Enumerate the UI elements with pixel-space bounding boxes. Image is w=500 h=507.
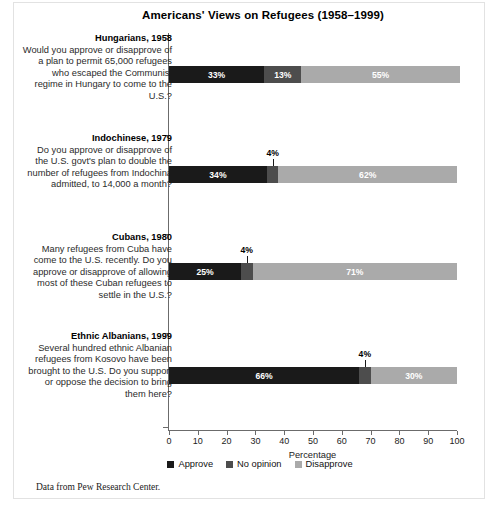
x-tick-label: 40 [279,436,289,446]
x-tick-label: 0 [166,436,171,446]
bar-segment-disapprove[interactable]: 30% [371,367,457,384]
legend-item[interactable]: Approve [167,459,213,469]
chart-title: Americans' Views on Refugees (1958–1999) [14,9,486,21]
x-tick-mark [198,431,199,435]
x-tick-mark [428,431,429,435]
legend-label: Approve [178,459,213,469]
stacked-bar[interactable]: 66%4%30% [169,367,457,384]
x-tick-mark [169,431,170,435]
stacked-bar[interactable]: 33%13%55% [169,66,457,83]
group-label: Cubans, 1980Many refugees from Cuba have… [22,232,172,302]
bar-segment-approve[interactable]: 33% [169,66,264,83]
group-question: Several hundred ethnic Albanian refugees… [22,343,172,401]
x-tick-mark [284,431,285,435]
x-tick-label: 90 [423,436,433,446]
x-tick-mark [227,431,228,435]
callout-leader-line [273,159,274,166]
legend-swatch-icon [295,461,302,468]
chart-panel: Americans' Views on Refugees (1958–1999)… [13,2,485,499]
x-tick-mark [342,431,343,435]
bar-segment-disapprove[interactable]: 71% [253,263,457,280]
legend-label: Disapprove [306,459,353,469]
x-tick-label: 50 [308,436,318,446]
x-tick-label: 60 [337,436,347,446]
x-tick-mark [255,431,256,435]
no-opinion-callout-label: 4% [266,148,278,158]
legend-item[interactable]: No opinion [226,459,281,469]
x-tick-mark [399,431,400,435]
group-question: Many refugees from Cuba have come to the… [22,244,172,302]
legend-item[interactable]: Disapprove [295,459,353,469]
x-tick-label: 30 [250,436,260,446]
bar-segment-noopinion[interactable]: 13% [264,66,301,83]
chart-legend: ApproveNo opinionDisapprove [14,459,486,469]
x-tick-label: 10 [193,436,203,446]
bar-segment-disapprove[interactable]: 55% [301,66,459,83]
no-opinion-callout-label: 4% [241,245,253,255]
x-tick-mark [371,431,372,435]
group-question: Do you approve or disapprove of the U.S.… [22,145,172,191]
group-label: Hungarians, 1958Would you approve or dis… [22,33,172,103]
x-tick-label: 100 [449,436,464,446]
x-tick-label: 70 [366,436,376,446]
x-tick-mark [457,431,458,435]
legend-swatch-icon [226,461,233,468]
x-tick-label: 20 [222,436,232,446]
group-heading: Indochinese, 1979 [22,133,172,145]
x-tick-label: 80 [394,436,404,446]
y-tick-mark [163,427,168,428]
bar-segment-noopinion[interactable]: 4% [267,166,279,183]
group-heading: Hungarians, 1958 [22,33,172,45]
callout-leader-line [365,360,366,367]
group-heading: Ethnic Albanians, 1999 [22,331,172,343]
bar-segment-noopinion[interactable]: 4% [241,263,253,280]
bar-segment-approve[interactable]: 34% [169,166,267,183]
x-tick-mark [313,431,314,435]
legend-label: No opinion [237,459,281,469]
bar-segment-noopinion[interactable]: 4% [359,367,371,384]
callout-leader-line [247,256,248,263]
stacked-bar[interactable]: 34%4%62% [169,166,457,183]
bar-segment-approve[interactable]: 66% [169,367,359,384]
group-label: Ethnic Albanians, 1999Several hundred et… [22,331,172,401]
legend-swatch-icon [167,461,174,468]
no-opinion-callout-label: 4% [359,349,371,359]
group-label: Indochinese, 1979Do you approve or disap… [22,133,172,191]
source-caption: Data from Pew Research Center. [36,482,160,492]
plot-area: Hungarians, 1958Would you approve or dis… [14,29,486,439]
stacked-bar[interactable]: 25%4%71% [169,263,457,280]
bar-segment-approve[interactable]: 25% [169,263,241,280]
group-heading: Cubans, 1980 [22,232,172,244]
bar-segment-disapprove[interactable]: 62% [278,166,457,183]
group-question: Would you approve or disapprove of a pla… [22,45,172,103]
